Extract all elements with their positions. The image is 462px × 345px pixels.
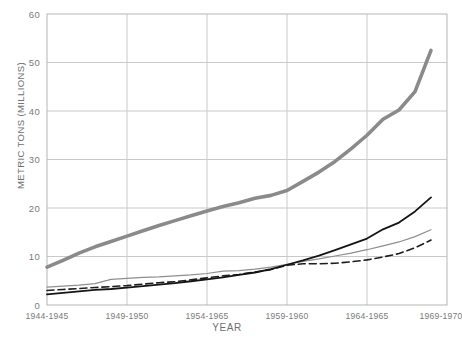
x-tick-label-6: 1969-1970 <box>420 311 462 321</box>
x-tick-label-5: 1964-1965 <box>346 311 389 321</box>
grid-lines <box>47 14 447 305</box>
x-axis-title: YEAR <box>0 322 454 333</box>
y-tick-label-40: 40 <box>6 106 40 117</box>
series-thin-gray-series <box>47 230 431 287</box>
series-solid-black-series <box>47 197 431 294</box>
y-tick-label-30: 30 <box>6 154 40 165</box>
x-tick-label-2: 1949-1950 <box>106 311 149 321</box>
y-tick-label-50: 50 <box>6 57 40 68</box>
y-axis-title: METRIC TONS (MILLIONS) <box>15 46 26 206</box>
x-tick-label-1: 1944-1945 <box>26 311 69 321</box>
x-tick-label-3: 1954-1965 <box>186 311 229 321</box>
series-lines <box>47 50 431 294</box>
x-tick-label-4: 1959-1960 <box>266 311 309 321</box>
y-tick-label-20: 20 <box>6 203 40 214</box>
y-tick-label-10: 10 <box>6 251 40 262</box>
y-tick-label-0: 0 <box>6 300 40 311</box>
y-tick-label-60: 60 <box>6 9 40 20</box>
